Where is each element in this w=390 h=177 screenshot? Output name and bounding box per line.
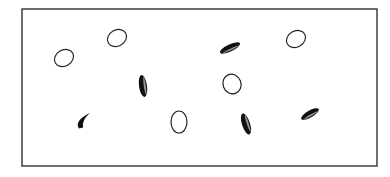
disk-edge-on — [239, 112, 253, 135]
disk-edge-on — [75, 112, 95, 129]
frame-rectangle — [22, 9, 377, 166]
disks-group — [51, 26, 320, 136]
disk-face-on — [283, 27, 308, 51]
disks-diagram — [0, 0, 390, 177]
disk-face-on — [51, 46, 76, 70]
disk-face-on — [171, 111, 187, 133]
disk-face-on — [104, 26, 129, 50]
disk-edge-on — [300, 106, 321, 122]
disk-edge-on — [138, 75, 149, 98]
figure — [0, 0, 390, 177]
disk-edge-on — [219, 40, 242, 56]
disk-face-on — [220, 72, 244, 97]
